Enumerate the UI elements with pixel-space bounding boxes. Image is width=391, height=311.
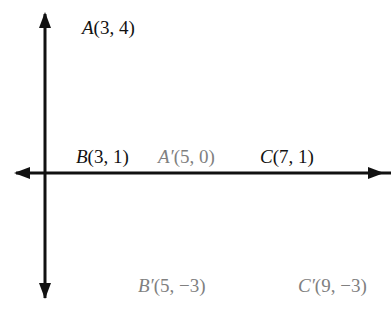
x-axis-left-arrow-icon	[14, 167, 30, 179]
vertex-a-prime-label: A′(5, 0)	[156, 146, 215, 168]
vertex-b-prime-label: B′(5, −3)	[138, 275, 206, 297]
y-axis-up-arrow-icon	[39, 12, 51, 28]
vertex-a-coords: (3, 4)	[94, 17, 135, 39]
coordinate-plane-figure: A(3, 4) B(3, 1) A′(5, 0) C(7, 1) B′(5, −…	[0, 0, 391, 311]
coordinate-plane-svg: A(3, 4) B(3, 1) A′(5, 0) C(7, 1) B′(5, −…	[0, 0, 391, 311]
vertex-b-label: B(3, 1)	[76, 146, 129, 168]
vertex-a-label: A(3, 4)	[80, 17, 135, 39]
x-axis-right-arrow-icon	[368, 167, 384, 179]
y-axis-down-arrow-icon	[39, 283, 51, 299]
vertex-c-prime-label: C′(9, −3)	[298, 275, 367, 297]
vertex-c-label: C(7, 1)	[260, 146, 314, 168]
